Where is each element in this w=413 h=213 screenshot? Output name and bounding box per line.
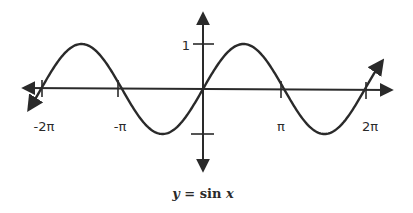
caption-x: x [225,186,234,201]
label-pi: π [277,119,285,134]
caption-eq: = sin [180,186,226,201]
label-2pi: 2π [362,119,378,134]
x-axis [24,88,391,90]
label-neg2pi: -2π [34,119,55,134]
label-negpi: -π [114,119,127,134]
caption: y = sin x [171,186,234,201]
label-y1: 1 [182,38,190,53]
sine-graph: -2π -π π 2π 1 y = sin x [0,0,413,213]
